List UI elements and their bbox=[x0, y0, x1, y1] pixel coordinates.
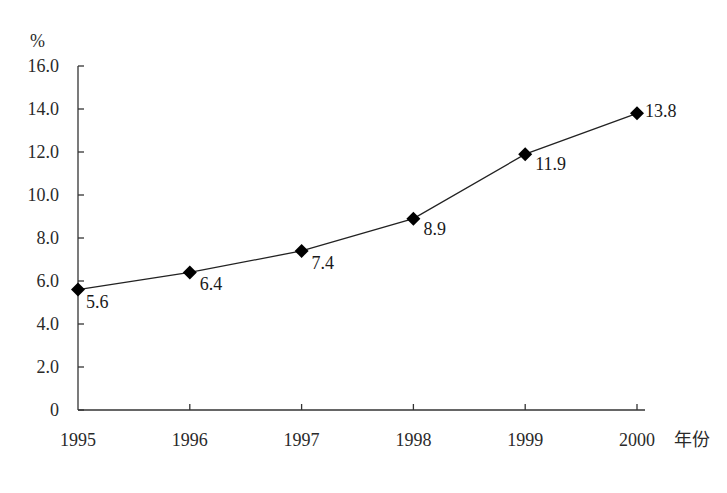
y-tick-label: 6.0 bbox=[37, 271, 60, 291]
y-tick-label: 4.0 bbox=[37, 314, 60, 334]
diamond-marker bbox=[295, 244, 309, 258]
diamond-marker bbox=[406, 212, 420, 226]
data-point-label: 11.9 bbox=[535, 154, 566, 174]
y-tick-label: 14.0 bbox=[28, 99, 60, 119]
y-tick-label: 16.0 bbox=[28, 56, 60, 76]
data-series: 5.66.47.48.911.913.8 bbox=[71, 101, 677, 311]
y-tick-label: 12.0 bbox=[28, 142, 60, 162]
data-point-label: 6.4 bbox=[200, 274, 223, 294]
diamond-marker bbox=[71, 283, 85, 297]
x-tick-label: 1996 bbox=[172, 430, 208, 450]
x-axis-title: 年份 bbox=[674, 430, 710, 450]
x-tick-label: 1999 bbox=[507, 430, 543, 450]
data-point-label: 5.6 bbox=[86, 292, 109, 312]
y-axis: 02.04.06.08.010.012.014.016.0 bbox=[28, 56, 85, 420]
y-tick-label: 8.0 bbox=[37, 228, 60, 248]
diamond-marker bbox=[518, 147, 532, 161]
diamond-marker bbox=[630, 106, 644, 120]
data-point-label: 7.4 bbox=[312, 253, 335, 273]
diamond-marker bbox=[183, 265, 197, 279]
y-axis-unit-label: % bbox=[30, 31, 45, 51]
series-line bbox=[78, 113, 637, 289]
data-point-label: 13.8 bbox=[645, 101, 677, 121]
y-tick-label: 2.0 bbox=[37, 357, 60, 377]
data-point-label: 8.9 bbox=[423, 219, 446, 239]
x-tick-label: 1995 bbox=[60, 430, 96, 450]
x-tick-label: 2000 bbox=[619, 430, 655, 450]
y-tick-label: 10.0 bbox=[28, 185, 60, 205]
x-axis: 199519961997199819992000 bbox=[60, 404, 655, 450]
x-tick-label: 1997 bbox=[284, 430, 320, 450]
line-chart: % 02.04.06.08.010.012.014.016.0 19951996… bbox=[0, 0, 727, 493]
x-tick-label: 1998 bbox=[395, 430, 431, 450]
y-tick-label: 0 bbox=[50, 400, 59, 420]
